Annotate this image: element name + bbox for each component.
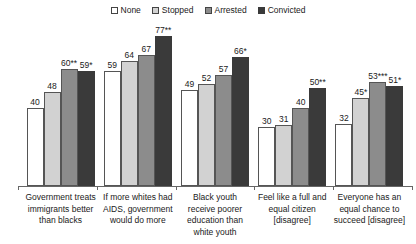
bar-stopped[interactable] (198, 84, 215, 186)
legend-swatch-arrested-icon (205, 7, 212, 14)
category-label-4: Feel like a full and equal citizen [disa… (254, 192, 331, 238)
bar-item[interactable]: 59 (104, 20, 121, 186)
bar-stopped[interactable] (121, 61, 138, 186)
legend-label-convicted: Convicted (268, 6, 306, 15)
legend-label-none: None (121, 6, 141, 15)
bar-item[interactable]: 57 (215, 20, 232, 186)
bar-item[interactable]: 45* (352, 20, 369, 186)
bar-value-label: 30 (262, 116, 271, 126)
bar-convicted[interactable] (232, 57, 249, 186)
legend-swatch-convicted-icon (258, 7, 265, 14)
bar-value-label: 60** (61, 58, 77, 68)
legend-label-stopped: Stopped (162, 6, 194, 15)
bar-stopped[interactable] (352, 98, 369, 186)
bar-none[interactable] (27, 108, 44, 186)
bar-value-label: 48 (47, 81, 56, 91)
bar-groups: 404860**59*59646777**49525766*30314050**… (22, 20, 408, 186)
legend-swatch-none-icon (111, 7, 118, 14)
bar-value-label: 53*** (368, 71, 387, 81)
category-label-3: Black youth receive poorer education tha… (176, 192, 253, 238)
axis-tick (97, 186, 98, 190)
bar-stopped[interactable] (44, 92, 61, 186)
plot-area: 404860**59*59646777**49525766*30314050**… (0, 20, 416, 186)
bar-value-label: 51* (389, 75, 402, 85)
bar-none[interactable] (258, 127, 275, 186)
bar-item[interactable]: 51* (386, 20, 403, 186)
bar-convicted[interactable] (78, 71, 95, 186)
axis-tick (18, 186, 19, 190)
bar-value-label: 67 (142, 44, 151, 54)
bar-value-label: 40 (296, 97, 305, 107)
bar-arrested[interactable] (369, 82, 386, 186)
bar-group: 30314050** (254, 20, 331, 186)
bar-group: 49525766* (176, 20, 253, 186)
bar-item[interactable]: 60** (61, 20, 78, 186)
bar-item[interactable]: 53*** (369, 20, 386, 186)
bar-none[interactable] (181, 90, 198, 186)
bar-value-label: 59* (80, 60, 93, 70)
bar-group: 59646777** (99, 20, 176, 186)
bar-item[interactable]: 64 (121, 20, 138, 186)
bar-value-label: 57 (219, 64, 228, 74)
axis-tick (254, 186, 255, 190)
bar-item[interactable]: 67 (138, 20, 155, 186)
category-label-1: Government treats immigrants better than… (22, 192, 99, 238)
axis-tick (176, 186, 177, 190)
bar-value-label: 31 (279, 114, 288, 124)
axis-tick (333, 186, 334, 190)
legend-label-arrested: Arrested (215, 6, 247, 15)
bar-convicted[interactable] (386, 86, 403, 186)
x-axis-ticks (18, 186, 412, 190)
chart-legend: None Stopped Arrested Convicted (0, 4, 416, 17)
bar-value-label: 66* (234, 46, 247, 56)
legend-swatch-stopped-icon (152, 7, 159, 14)
legend-item-stopped: Stopped (152, 6, 194, 15)
bar-value-label: 40 (30, 97, 39, 107)
legend-item-none: None (111, 6, 141, 15)
bar-arrested[interactable] (61, 69, 78, 186)
bar-item[interactable]: 31 (275, 20, 292, 186)
category-labels: Government treats immigrants better than… (22, 192, 408, 238)
bar-item[interactable]: 66* (232, 20, 249, 186)
bar-none[interactable] (335, 124, 352, 186)
bar-convicted[interactable] (309, 88, 326, 186)
bar-convicted[interactable] (155, 36, 172, 186)
bar-value-label: 64 (125, 50, 134, 60)
bar-group: 3245*53***51* (331, 20, 408, 186)
bar-item[interactable]: 50** (309, 20, 326, 186)
bar-item[interactable]: 40 (27, 20, 44, 186)
bar-item[interactable]: 77** (155, 20, 172, 186)
bar-value-label: 32 (339, 113, 348, 123)
bar-item[interactable]: 48 (44, 20, 61, 186)
bar-item[interactable]: 32 (335, 20, 352, 186)
bar-arrested[interactable] (292, 108, 309, 186)
bar-none[interactable] (104, 71, 121, 186)
bar-arrested[interactable] (215, 75, 232, 186)
bar-item[interactable]: 49 (181, 20, 198, 186)
bar-value-label: 52 (202, 73, 211, 83)
bar-item[interactable]: 30 (258, 20, 275, 186)
bar-value-label: 77** (155, 25, 171, 35)
legend-item-arrested: Arrested (205, 6, 247, 15)
bar-item[interactable]: 40 (292, 20, 309, 186)
bar-value-label: 59 (108, 60, 117, 70)
bar-item[interactable]: 52 (198, 20, 215, 186)
bar-value-label: 50** (310, 77, 326, 87)
axis-tick (412, 186, 413, 190)
bar-value-label: 49 (185, 79, 194, 89)
grouped-bar-chart: None Stopped Arrested Convicted 404860**… (0, 0, 416, 244)
bar-value-label: 45* (355, 87, 368, 97)
bar-item[interactable]: 59* (78, 20, 95, 186)
bar-group: 404860**59* (22, 20, 99, 186)
legend-item-convicted: Convicted (258, 6, 306, 15)
category-label-5: Everyone has an equal chance to succeed … (331, 192, 408, 238)
bar-arrested[interactable] (138, 55, 155, 186)
bar-stopped[interactable] (275, 125, 292, 186)
category-label-2: If more whites had AIDS, government woul… (99, 192, 176, 238)
